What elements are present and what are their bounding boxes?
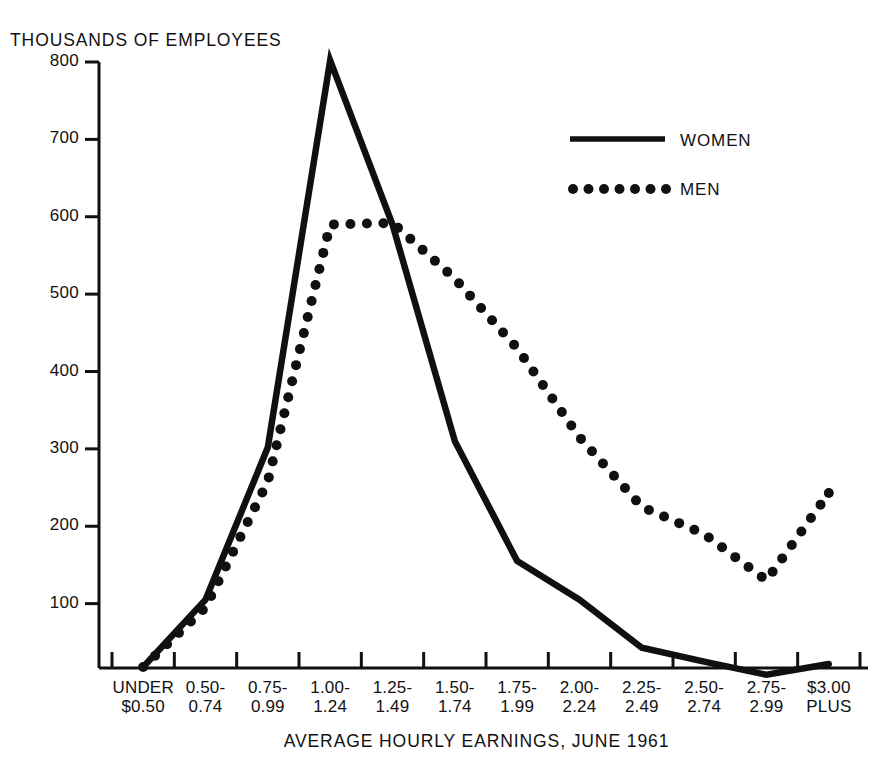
plot-canvas: [0, 0, 875, 775]
y-tick-label: 500: [23, 283, 79, 303]
legend-label-women: WOMEN: [680, 131, 752, 151]
series-line-men: [138, 218, 834, 672]
y-axis-title: THOUSANDS OF EMPLOYEES: [10, 30, 282, 51]
y-axis-ticks: [85, 62, 99, 604]
y-tick-label: 100: [23, 593, 79, 613]
y-tick-label: 300: [23, 438, 79, 458]
series-line-women: [143, 60, 829, 674]
x-tick-label: $3.00PLUS: [781, 678, 875, 716]
x-axis-title: AVERAGE HOURLY EARNINGS, JUNE 1961: [0, 731, 875, 752]
y-tick-label: 200: [23, 515, 79, 535]
x-tick-label-line2: PLUS: [781, 697, 875, 716]
chart-figure: THOUSANDS OF EMPLOYEES 10020030040050060…: [0, 0, 875, 775]
legend-marks: [568, 139, 671, 194]
y-tick-label: 800: [23, 51, 79, 71]
x-axis-ticks: [112, 652, 860, 668]
y-tick-label: 400: [23, 361, 79, 381]
y-tick-label: 600: [23, 206, 79, 226]
legend-label-men: MEN: [680, 180, 720, 200]
x-tick-label-line1: $3.00: [781, 678, 875, 697]
y-tick-label: 700: [23, 128, 79, 148]
